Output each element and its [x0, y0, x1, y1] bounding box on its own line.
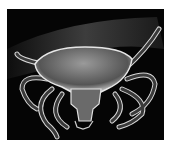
tick-illustration	[7, 9, 164, 140]
micrograph-image	[7, 9, 164, 140]
tick-body	[35, 47, 132, 94]
tick-head	[71, 89, 101, 121]
